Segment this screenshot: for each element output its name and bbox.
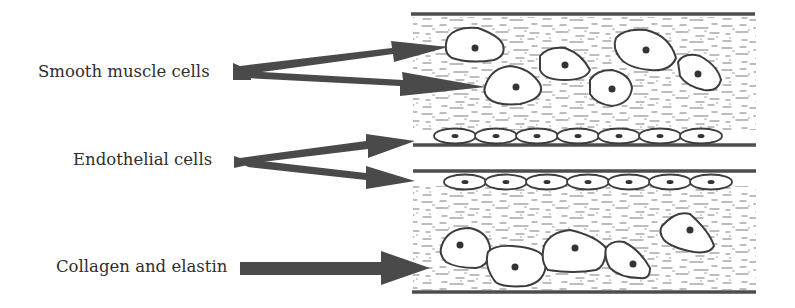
vessel-diagram	[0, 0, 795, 308]
arrow-endothelial-lower	[240, 161, 415, 189]
arrow-collagen-elastin	[240, 251, 430, 285]
